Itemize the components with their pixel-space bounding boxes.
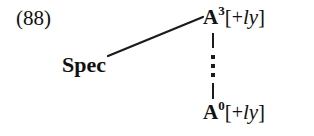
tree-node-a0-feature: ly [243, 100, 258, 124]
figure-canvas: (88) Spec A3[+ly] A0[+ly] [0, 0, 314, 136]
dominance-connector-dot-3 [211, 73, 215, 77]
tree-node-a3-head: A [203, 5, 218, 29]
tree-node-a0-bracket-open: [ [225, 100, 232, 124]
tree-node-a3-superscript: 3 [218, 3, 225, 18]
tree-node-a0-head: A [203, 100, 218, 124]
dominance-connector-bar-top [212, 33, 214, 48]
dominance-connector-bar-bottom [212, 83, 214, 99]
tree-node-a3-bracket-close: ] [258, 5, 265, 29]
tree-node-spec: Spec [62, 53, 106, 77]
tree-node-a3-feature-sign: + [232, 6, 243, 28]
tree-node-a0-superscript: 0 [218, 98, 225, 113]
example-number-label: (88) [16, 7, 51, 30]
tree-node-a0-bracket-close: ] [258, 100, 265, 124]
tree-node-a3-bracket-open: [ [225, 5, 232, 29]
dominance-connector-a3-to-a0 [207, 33, 220, 99]
tree-node-a0-feature-sign: + [232, 101, 243, 123]
tree-node-a3-feature: ly [243, 5, 258, 29]
tree-node-a0: A0[+ly] [203, 101, 265, 124]
dominance-connector-dot-1 [211, 55, 215, 59]
dominance-connector-dot-2 [211, 64, 215, 68]
tree-node-a3: A3[+ly] [203, 6, 265, 29]
branch-line-segment [108, 17, 203, 56]
